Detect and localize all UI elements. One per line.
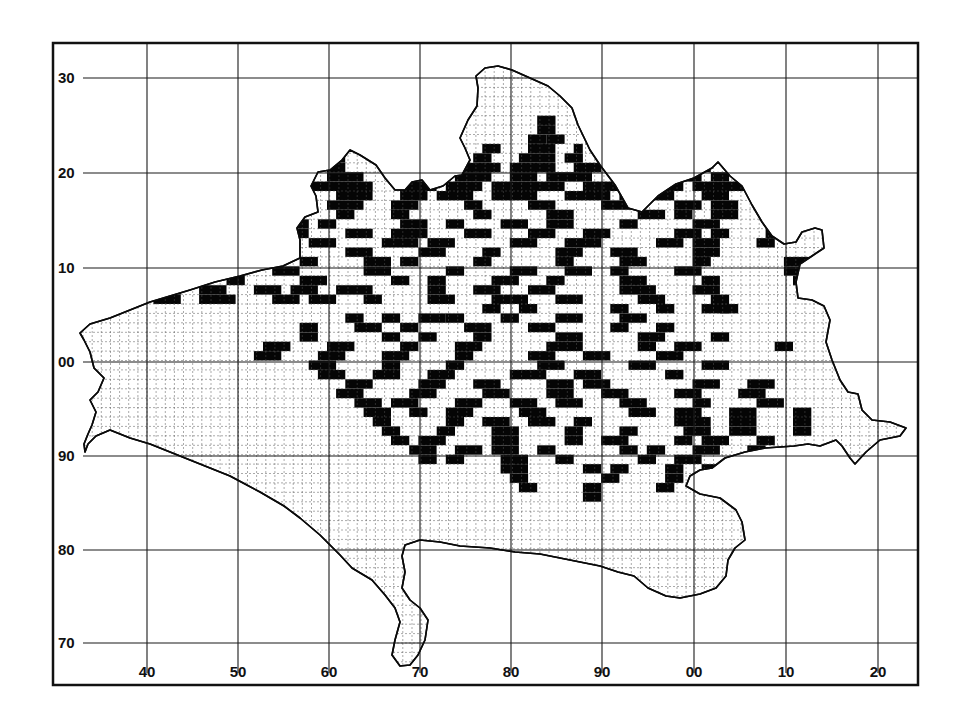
y-tick-label: 30 xyxy=(58,69,75,86)
y-tick-label: 10 xyxy=(58,259,75,276)
y-tick-label: 80 xyxy=(58,541,75,558)
y-tick-label: 90 xyxy=(58,447,75,464)
y-axis-labels: 30201000908070 xyxy=(58,69,75,651)
x-tick-label: 80 xyxy=(503,663,520,680)
y-tick-label: 20 xyxy=(58,164,75,181)
x-tick-label: 10 xyxy=(778,663,795,680)
x-tick-label: 00 xyxy=(686,663,703,680)
county-outline xyxy=(80,66,906,666)
x-tick-label: 20 xyxy=(870,663,887,680)
x-axis-labels: 405060708090001020 xyxy=(139,663,887,680)
distribution-map: 405060708090001020 30201000908070 xyxy=(0,0,967,724)
y-tick-label: 70 xyxy=(58,634,75,651)
x-tick-label: 60 xyxy=(321,663,338,680)
x-tick-label: 50 xyxy=(230,663,247,680)
y-tick-label: 00 xyxy=(58,353,75,370)
x-tick-label: 40 xyxy=(139,663,156,680)
x-tick-label: 90 xyxy=(594,663,611,680)
x-tick-label: 70 xyxy=(412,663,429,680)
